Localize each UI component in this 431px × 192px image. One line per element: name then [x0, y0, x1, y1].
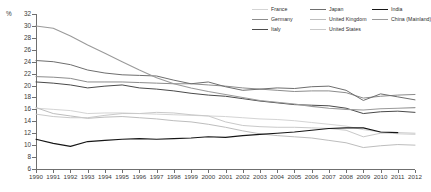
legend-color-swatch: [252, 29, 268, 30]
x-axis-tick: [277, 170, 278, 173]
y-axis-tick: [32, 133, 36, 134]
y-axis-tick-label: 30: [24, 23, 31, 29]
x-axis-tick: [157, 170, 158, 173]
x-axis-tick: [363, 170, 364, 173]
x-axis-tick: [191, 170, 192, 173]
x-axis-tick-label: 1998: [167, 174, 181, 180]
x-axis-tick-label: 1995: [115, 174, 129, 180]
legend-color-swatch: [310, 29, 326, 30]
y-axis-tick: [32, 157, 36, 158]
y-axis-tick: [32, 74, 36, 75]
y-axis-tick-label: 28: [24, 35, 31, 41]
x-axis-tick-label: 2012: [408, 174, 422, 180]
x-axis-tick-label: 2006: [305, 174, 319, 180]
x-axis-labels: 1990199119921993199419951996199719981999…: [0, 174, 423, 186]
x-axis-tick-label: 2001: [219, 174, 233, 180]
plot-area: [36, 14, 415, 169]
x-axis-tick-label: 2010: [374, 174, 388, 180]
legend-color-swatch: [252, 9, 268, 10]
legend-label: United States: [329, 24, 361, 34]
x-axis-tick: [53, 170, 54, 173]
x-axis-tick: [105, 170, 106, 173]
legend-label: France: [271, 4, 287, 14]
x-axis-tick-label: 2003: [253, 174, 267, 180]
legend-column: IndiaChina (Mainland): [372, 4, 431, 24]
y-axis-tick: [32, 14, 36, 15]
legend-item[interactable]: Italy: [252, 24, 293, 34]
x-axis-tick-label: 2000: [201, 174, 215, 180]
y-axis-tick: [32, 121, 36, 122]
x-axis-tick-label: 1996: [132, 174, 146, 180]
legend-color-swatch: [252, 19, 268, 20]
y-axis-tick-label: 20: [24, 82, 31, 88]
legend-item[interactable]: Germany: [252, 14, 293, 24]
x-axis-tick-label: 1997: [150, 174, 164, 180]
x-axis-tick: [208, 170, 209, 173]
legend-item[interactable]: United Kingdom: [310, 14, 367, 24]
y-axis-tick: [32, 145, 36, 146]
series-line: [36, 112, 415, 136]
y-axis-tick-label: 16: [24, 106, 31, 112]
x-axis-tick: [415, 170, 416, 173]
x-axis-tick: [312, 170, 313, 173]
x-axis-tick: [122, 170, 123, 173]
legend-color-swatch: [310, 19, 326, 20]
legend-column: JapanUnited KingdomUnited States: [310, 4, 367, 34]
x-axis-tick-label: 2004: [270, 174, 284, 180]
y-axis-tick: [32, 62, 36, 63]
legend-color-swatch: [310, 9, 326, 10]
x-axis-tick-label: 2011: [391, 174, 404, 180]
legend-item[interactable]: Japan: [310, 4, 367, 14]
x-axis-tick-label: 1992: [64, 174, 78, 180]
x-axis-tick: [294, 170, 295, 173]
x-axis-tick: [36, 170, 37, 173]
y-axis-tick: [32, 50, 36, 51]
x-axis-tick: [243, 170, 244, 173]
x-axis-tick-label: 2009: [356, 174, 370, 180]
legend: FranceGermanyItalyJapanUnited KingdomUni…: [252, 4, 422, 34]
legend-label: Germany: [271, 14, 293, 24]
y-axis-tick-label: 10: [24, 142, 31, 148]
y-axis-tick-label: 22: [24, 70, 31, 76]
legend-column: FranceGermanyItaly: [252, 4, 293, 34]
y-axis-tick-label: 12: [24, 130, 31, 136]
legend-color-swatch: [372, 19, 388, 20]
y-axis-tick-label: 18: [24, 94, 31, 100]
legend-label: Japan: [329, 4, 343, 14]
legend-item[interactable]: France: [252, 4, 293, 14]
legend-item[interactable]: China (Mainland): [372, 14, 431, 24]
x-axis-tick: [398, 170, 399, 173]
y-axis-tick-label: 32: [24, 11, 31, 17]
x-axis-tick-label: 2002: [236, 174, 250, 180]
y-axis-tick: [32, 38, 36, 39]
y-axis-tick: [32, 97, 36, 98]
y-axis-tick: [32, 26, 36, 27]
series-line: [36, 128, 398, 146]
x-axis-tick: [346, 170, 347, 173]
x-axis-tick-label: 1999: [184, 174, 198, 180]
y-axis-tick-label: 24: [24, 58, 31, 64]
y-axis-tick-label: 14: [24, 118, 31, 124]
legend-color-swatch: [372, 9, 388, 10]
y-axis-tick-label: 6: [27, 166, 31, 172]
x-axis-tick: [329, 170, 330, 173]
y-axis-tick: [32, 109, 36, 110]
legend-item[interactable]: United States: [310, 24, 367, 34]
y-axis-labels: 32302826242220181614121086: [0, 0, 31, 192]
x-axis-tick: [226, 170, 227, 173]
y-axis-tick: [32, 86, 36, 87]
x-axis-tick-label: 2005: [288, 174, 302, 180]
y-axis-tick-label: 8: [27, 154, 31, 160]
x-axis-tick: [381, 170, 382, 173]
legend-label: India: [391, 4, 403, 14]
legend-label: United Kingdom: [329, 14, 367, 24]
legend-item[interactable]: India: [372, 4, 431, 14]
x-axis-tick: [260, 170, 261, 173]
x-axis-tick: [174, 170, 175, 173]
x-axis-tick: [88, 170, 89, 173]
legend-label: Italy: [271, 24, 281, 34]
x-axis-tick: [70, 170, 71, 173]
legend-label: China (Mainland): [391, 14, 431, 24]
x-axis-tick-label: 1994: [98, 174, 112, 180]
